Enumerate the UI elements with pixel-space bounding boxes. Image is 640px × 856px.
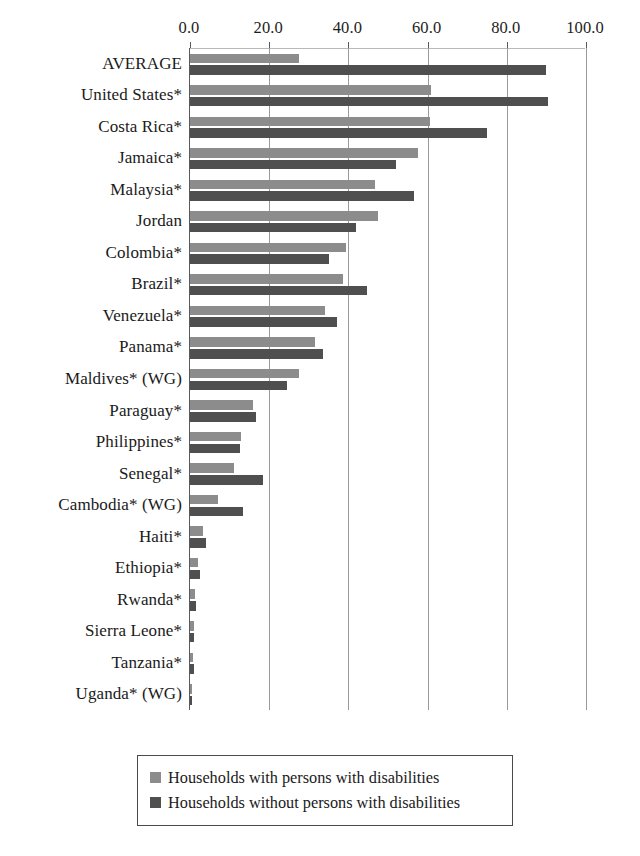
chart-row: Jamaica*: [190, 143, 585, 175]
chart-row: Costa Rica*: [190, 111, 585, 143]
gridline: [586, 48, 587, 710]
category-label: Colombia*: [106, 243, 182, 263]
chart-row: Tanzania*: [190, 647, 585, 679]
chart-row: Ethiopia*: [190, 552, 585, 584]
chart-row: Senegal*: [190, 458, 585, 490]
chart-row: Colombia*: [190, 237, 585, 269]
bar-with-disabilities: [190, 526, 203, 536]
chart-row: Sierra Leone*: [190, 615, 585, 647]
bar-with-disabilities: [190, 243, 346, 253]
legend-swatch-icon: [150, 797, 161, 808]
bar-with-disabilities: [190, 589, 195, 599]
bar-with-disabilities: [190, 558, 198, 568]
category-label: Ethiopia*: [115, 558, 182, 578]
bar-with-disabilities: [190, 621, 194, 631]
category-label: Paraguay*: [109, 401, 182, 421]
bar-with-disabilities: [190, 684, 192, 694]
x-tick-label: 60.0: [412, 18, 441, 38]
x-axis-tick-labels: 0.020.040.060.080.0100.0: [189, 18, 585, 40]
category-label: Tanzania*: [111, 653, 182, 673]
bar-with-disabilities: [190, 54, 299, 64]
bar-rows: AVERAGEUnited States*Costa Rica*Jamaica*…: [190, 48, 585, 710]
chart-legend: Households with persons with disabilitie…: [137, 755, 513, 826]
bar-with-disabilities: [190, 495, 218, 505]
category-label: Panama*: [119, 337, 182, 357]
x-tick-mark: [586, 42, 587, 48]
bar-without-disabilities: [190, 570, 200, 580]
legend-item[interactable]: Households without persons with disabili…: [150, 790, 502, 815]
bar-without-disabilities: [190, 412, 256, 422]
bar-without-disabilities: [190, 381, 287, 391]
bar-with-disabilities: [190, 274, 343, 284]
chart-row: Paraguay*: [190, 395, 585, 427]
legend-label: Households with persons with disabilitie…: [168, 768, 439, 788]
chart-row: Panama*: [190, 332, 585, 364]
bar-with-disabilities: [190, 369, 299, 379]
category-label: Malaysia*: [110, 180, 182, 200]
legend-item[interactable]: Households with persons with disabilitie…: [150, 765, 502, 790]
bar-with-disabilities: [190, 653, 193, 663]
category-label: Brazil*: [131, 274, 182, 294]
chart-row: Brazil*: [190, 269, 585, 301]
chart-row: Venezuela*: [190, 300, 585, 332]
chart-row: Uganda* (WG): [190, 678, 585, 710]
bar-without-disabilities: [190, 254, 329, 264]
chart-row: Haiti*: [190, 521, 585, 553]
category-label: United States*: [81, 85, 182, 105]
x-tick-label: 0.0: [179, 18, 200, 38]
plot-area: AVERAGEUnited States*Costa Rica*Jamaica*…: [189, 48, 585, 710]
x-tick-label: 100.0: [566, 18, 604, 38]
x-tick-label: 80.0: [491, 18, 520, 38]
category-label: Sierra Leone*: [85, 621, 182, 641]
bar-with-disabilities: [190, 463, 234, 473]
bar-with-disabilities: [190, 148, 418, 158]
bar-with-disabilities: [190, 337, 315, 347]
bar-with-disabilities: [190, 180, 375, 190]
bar-without-disabilities: [190, 633, 194, 643]
chart-row: United States*: [190, 80, 585, 112]
category-label: AVERAGE: [102, 54, 182, 74]
bar-without-disabilities: [190, 286, 367, 296]
bar-without-disabilities: [190, 97, 548, 107]
chart-row: AVERAGE: [190, 48, 585, 80]
bar-without-disabilities: [190, 349, 323, 359]
legend-label: Households without persons with disabili…: [168, 793, 460, 813]
chart-row: Cambodia* (WG): [190, 489, 585, 521]
x-tick-label: 40.0: [333, 18, 362, 38]
category-label: Venezuela*: [103, 306, 182, 326]
category-label: Rwanda*: [117, 590, 182, 610]
chart-row: Rwanda*: [190, 584, 585, 616]
bar-without-disabilities: [190, 475, 263, 485]
category-label: Costa Rica*: [98, 117, 182, 137]
bar-without-disabilities: [190, 664, 194, 674]
chart-row: Jordan: [190, 206, 585, 238]
category-label: Maldives* (WG): [65, 369, 182, 389]
bar-without-disabilities: [190, 696, 192, 706]
bar-without-disabilities: [190, 444, 240, 454]
bar-chart: 0.020.040.060.080.0100.0 AVERAGEUnited S…: [0, 0, 640, 856]
category-label: Senegal*: [119, 464, 182, 484]
category-label: Jamaica*: [118, 148, 182, 168]
bar-with-disabilities: [190, 85, 431, 95]
bar-with-disabilities: [190, 400, 253, 410]
bar-without-disabilities: [190, 128, 487, 138]
category-label: Haiti*: [139, 527, 182, 547]
bar-without-disabilities: [190, 507, 243, 517]
bar-with-disabilities: [190, 211, 378, 221]
bar-without-disabilities: [190, 160, 396, 170]
bar-without-disabilities: [190, 601, 196, 611]
bar-with-disabilities: [190, 117, 430, 127]
bar-with-disabilities: [190, 306, 325, 316]
chart-row: Malaysia*: [190, 174, 585, 206]
x-tick-label: 20.0: [254, 18, 283, 38]
bar-without-disabilities: [190, 191, 414, 201]
bar-without-disabilities: [190, 65, 546, 75]
bar-without-disabilities: [190, 538, 206, 548]
category-label: Jordan: [136, 211, 182, 231]
legend-swatch-icon: [150, 772, 161, 783]
chart-row: Maldives* (WG): [190, 363, 585, 395]
category-label: Philippines*: [96, 432, 182, 452]
bar-with-disabilities: [190, 432, 241, 442]
category-label: Cambodia* (WG): [58, 495, 182, 515]
bar-without-disabilities: [190, 317, 337, 327]
